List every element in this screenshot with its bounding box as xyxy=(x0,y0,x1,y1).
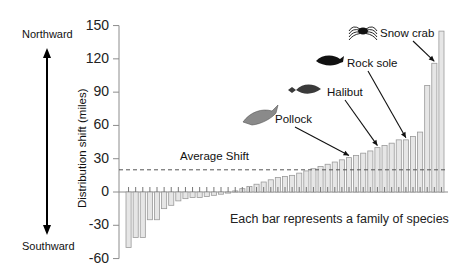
arrowhead-icon xyxy=(372,140,377,146)
northward-label: Northward xyxy=(22,28,73,40)
bar xyxy=(211,192,216,195)
bar xyxy=(396,140,401,192)
pollock-label: Pollock xyxy=(275,113,312,125)
bar xyxy=(361,153,366,192)
halibut-fish-icon xyxy=(288,85,321,94)
bar xyxy=(169,192,174,205)
halibut-label: Halibut xyxy=(327,86,363,98)
y-tick-label: -30 xyxy=(69,216,109,232)
rock-sole-label: Rock sole xyxy=(347,57,398,69)
y-tick-label: 0 xyxy=(69,183,109,199)
southward-label: Southward xyxy=(22,240,75,252)
bar xyxy=(410,137,415,192)
crab-leg xyxy=(349,32,360,37)
arrow-down-icon xyxy=(43,225,51,235)
bar xyxy=(126,192,131,247)
y-tick-label: 60 xyxy=(69,116,109,132)
bar xyxy=(418,132,423,192)
bar xyxy=(382,145,387,192)
bar xyxy=(368,151,373,192)
bar xyxy=(197,192,202,198)
bar xyxy=(133,192,138,237)
rock-sole-fish-icon xyxy=(316,55,344,65)
annotation-arrow xyxy=(345,100,377,146)
annotation-arrow xyxy=(295,127,349,156)
pollock-fish-icon xyxy=(243,105,278,125)
bar xyxy=(389,143,394,192)
y-tick-label: 120 xyxy=(69,50,109,66)
crab-leg xyxy=(366,32,377,37)
bar xyxy=(154,192,159,220)
bar xyxy=(432,63,437,192)
bar xyxy=(190,192,195,198)
bar xyxy=(425,85,430,192)
bar xyxy=(204,192,209,196)
snow-crab-label: Snow crab xyxy=(380,27,434,39)
bar xyxy=(439,31,444,192)
arrow-up-icon xyxy=(43,48,51,58)
bar xyxy=(140,192,145,237)
y-tick-label: 90 xyxy=(69,83,109,99)
bar xyxy=(218,192,223,194)
y-tick-label: 30 xyxy=(69,150,109,166)
chart-canvas xyxy=(0,0,464,279)
y-tick-label: -60 xyxy=(69,250,109,266)
chart-note: Each bar represents a family of species xyxy=(230,212,449,226)
bar xyxy=(162,192,167,209)
bar xyxy=(226,192,231,193)
y-tick-label: 150 xyxy=(69,17,109,33)
average-shift-label: Average Shift xyxy=(180,150,249,162)
bar xyxy=(183,192,188,199)
bar xyxy=(354,155,359,192)
bar xyxy=(176,192,181,201)
annotation-arrow xyxy=(368,71,406,138)
bar xyxy=(403,140,408,192)
bar xyxy=(147,192,152,220)
bar xyxy=(346,158,351,192)
